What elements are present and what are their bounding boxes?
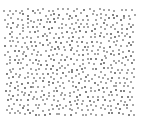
dot	[7, 23, 9, 25]
dot	[87, 109, 89, 111]
dot	[82, 59, 84, 61]
dot	[10, 17, 12, 19]
dot	[76, 59, 78, 61]
dot	[93, 63, 95, 65]
dot	[50, 76, 52, 78]
dot	[108, 112, 110, 114]
dot	[57, 81, 59, 83]
dot	[6, 26, 8, 28]
dot	[87, 96, 89, 98]
dot	[132, 24, 134, 26]
dot	[116, 40, 118, 42]
dot	[130, 81, 132, 83]
dot	[78, 54, 80, 56]
dot	[37, 19, 39, 21]
dot	[19, 12, 21, 14]
dot	[68, 37, 70, 39]
dot	[40, 64, 42, 66]
dot	[27, 22, 29, 24]
dot	[76, 8, 78, 10]
dot	[92, 109, 94, 111]
dot	[50, 58, 52, 60]
dot	[30, 68, 32, 70]
dot	[4, 37, 6, 39]
dot	[53, 90, 55, 92]
dot	[45, 60, 47, 62]
dot	[96, 41, 98, 43]
dot	[81, 109, 83, 111]
dot	[105, 82, 107, 84]
dot	[84, 46, 86, 48]
dot	[45, 68, 47, 70]
dot	[58, 108, 60, 110]
dot	[10, 27, 12, 29]
dot	[96, 14, 98, 16]
dot	[111, 67, 113, 69]
dot	[72, 85, 74, 87]
dot	[100, 107, 102, 109]
dot	[127, 59, 129, 61]
dot	[15, 45, 17, 47]
dot	[35, 59, 37, 61]
dot	[133, 59, 135, 61]
dot	[95, 58, 97, 60]
dot	[110, 109, 112, 111]
dot	[73, 91, 75, 93]
dot	[20, 99, 22, 101]
dot	[115, 62, 117, 64]
dot	[113, 10, 115, 12]
dot	[79, 94, 81, 96]
dot	[48, 109, 50, 111]
dot	[121, 24, 123, 26]
dot	[120, 45, 122, 47]
dot	[115, 82, 117, 84]
dot	[129, 18, 131, 20]
dot	[116, 15, 118, 17]
dot	[124, 82, 126, 84]
dot	[52, 54, 54, 56]
dot	[17, 41, 19, 43]
dot	[122, 39, 124, 41]
dot	[17, 85, 19, 87]
dot	[75, 31, 77, 33]
dot	[71, 71, 73, 73]
dot	[17, 18, 19, 20]
dot	[128, 114, 130, 116]
dot	[17, 89, 19, 91]
dot	[108, 9, 110, 11]
dot	[27, 26, 29, 28]
dot	[99, 35, 101, 37]
dot	[106, 33, 108, 35]
dot	[32, 86, 34, 88]
dot	[64, 114, 66, 116]
dot	[21, 19, 23, 21]
dot	[91, 41, 93, 43]
dot	[80, 23, 82, 25]
dot	[130, 55, 132, 57]
dot	[6, 109, 8, 111]
dot	[22, 37, 24, 39]
dot	[50, 49, 52, 51]
dot	[70, 58, 72, 60]
dot	[105, 14, 107, 16]
dot	[118, 53, 120, 55]
dot	[63, 98, 65, 100]
dot	[71, 109, 73, 111]
dot	[78, 73, 80, 75]
dot	[27, 104, 29, 106]
dot	[86, 23, 88, 25]
dot	[82, 19, 84, 21]
dot	[117, 103, 119, 105]
dot	[43, 94, 45, 96]
dot	[57, 100, 59, 102]
dot	[97, 49, 99, 51]
dot	[64, 94, 66, 96]
dot	[61, 27, 63, 29]
dot	[97, 84, 99, 86]
dot	[49, 113, 51, 115]
dot	[12, 76, 14, 78]
dot	[128, 50, 130, 52]
dot	[62, 82, 64, 84]
dot	[38, 114, 40, 116]
dot	[48, 84, 50, 86]
